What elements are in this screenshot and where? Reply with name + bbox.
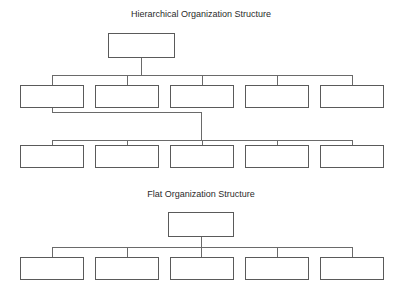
- flat-chart-group: [52, 237, 353, 257]
- hier-node-level2-2[interactable]: [95, 85, 159, 108]
- hier-node-level3-4[interactable]: [245, 145, 309, 168]
- flat-node-level2-1[interactable]: [20, 257, 84, 280]
- hier-level2-to-level3-connectors: [52, 108, 353, 145]
- hier-node-level2-3[interactable]: [170, 85, 234, 108]
- flat-node-level1-root[interactable]: [168, 212, 234, 237]
- hier-node-level3-5[interactable]: [320, 145, 384, 168]
- hier-node-level3-3[interactable]: [170, 145, 234, 168]
- flat-node-level2-3[interactable]: [170, 257, 234, 280]
- hier-node-level3-2[interactable]: [95, 145, 159, 168]
- flat-node-level2-4[interactable]: [245, 257, 309, 280]
- flat-node-level2-5[interactable]: [320, 257, 384, 280]
- flat-node-level2-2[interactable]: [95, 257, 159, 280]
- hier-node-level3-1[interactable]: [20, 145, 84, 168]
- hier-node-level2-5[interactable]: [320, 85, 384, 108]
- hier-node-level2-1[interactable]: [20, 85, 84, 108]
- flat-level1-to-level2-connectors: [52, 237, 353, 257]
- hier-node-level2-4[interactable]: [245, 85, 309, 108]
- hier-level1-to-level2-connectors: [52, 58, 353, 85]
- hier-node-level1-root[interactable]: [108, 33, 175, 58]
